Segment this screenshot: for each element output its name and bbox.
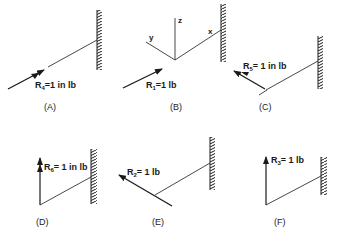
wall-hatch [210, 137, 215, 190]
load-label: R1=1 lb [146, 80, 177, 91]
beam [155, 163, 210, 195]
moment-arrow-icon [234, 71, 265, 89]
y-axis-label: y [149, 33, 154, 42]
panel-caption: (E) [152, 217, 164, 227]
panel-c: R5= 1 in lb (C) [234, 36, 323, 112]
panel-f: R3= 1 lb (F) [266, 155, 327, 227]
wall-hatch [321, 157, 327, 195]
double-arrowhead-icon [37, 164, 43, 172]
z-axis-label: z [178, 16, 182, 25]
panel-caption: (C) [259, 102, 272, 112]
cantilever-load-diagram: R4=1 in lb (A) z y x R1=1 lb (B) R5= 1 i… [0, 0, 337, 232]
wall-hatch [91, 149, 97, 204]
panel-caption: (B) [170, 102, 182, 112]
panel-a: R4=1 in lb (A) [8, 10, 102, 112]
panel-caption: (A) [44, 102, 56, 112]
beam [40, 177, 91, 205]
load-label: R2= 1 lb [127, 167, 161, 178]
panel-e: R2= 1 lb (E) [119, 137, 215, 227]
beam-x-axis [175, 30, 221, 60]
load-label: R6= 1 in lb [44, 162, 88, 173]
panel-caption: (F) [274, 217, 286, 227]
panel-b: z y x R1=1 lb (B) [123, 4, 226, 112]
wall-hatch [221, 4, 226, 62]
panel-d: R6= 1 in lb (D) [36, 149, 97, 227]
load-label: R4=1 in lb [35, 80, 77, 91]
wall-hatch [318, 36, 323, 89]
panel-caption: (D) [36, 217, 49, 227]
beam-end [259, 90, 267, 95]
y-axis [146, 42, 175, 60]
x-axis-label: x [208, 27, 213, 36]
force-arrow-icon [119, 175, 172, 206]
beam [266, 176, 321, 205]
load-label: R5= 1 in lb [243, 61, 287, 72]
beam [48, 40, 97, 67]
load-label: R3= 1 lb [271, 155, 305, 166]
wall-hatch [97, 10, 102, 70]
